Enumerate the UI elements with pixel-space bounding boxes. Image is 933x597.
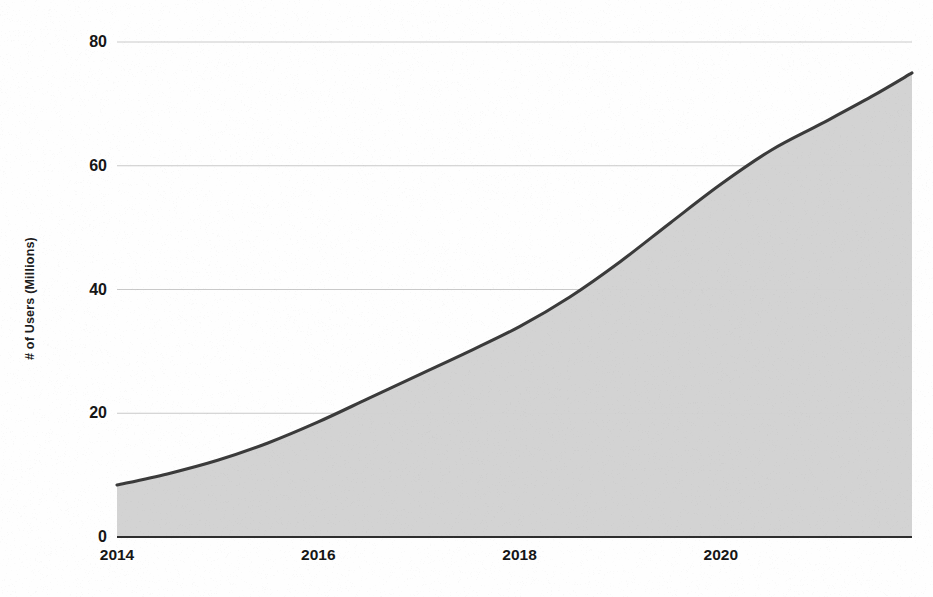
x-tick-label: 2018 xyxy=(502,547,536,563)
plot-svg xyxy=(117,42,912,537)
y-tick-label: 40 xyxy=(63,282,107,298)
y-tick-label: 60 xyxy=(63,158,107,174)
y-tick-label: 0 xyxy=(63,529,107,545)
x-tick-label: 2014 xyxy=(100,547,134,563)
y-tick-label: 80 xyxy=(63,34,107,50)
y-tick-label: 20 xyxy=(63,405,107,421)
y-axis-tick-labels: 020406080 xyxy=(55,0,107,597)
plot-area xyxy=(117,42,912,537)
area-series-fill xyxy=(117,73,912,537)
chart-figure: # of Users (Millions) 020406080 20142016… xyxy=(0,0,933,597)
x-tick-label: 2020 xyxy=(704,547,738,563)
y-axis-title: # of Users (Millions) xyxy=(0,0,60,597)
x-tick-label: 2016 xyxy=(301,547,335,563)
